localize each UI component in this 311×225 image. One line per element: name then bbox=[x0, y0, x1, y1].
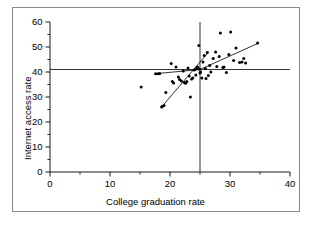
data-point bbox=[172, 82, 175, 85]
y-axis-title: Internet access rate bbox=[22, 77, 33, 160]
data-point bbox=[225, 71, 228, 74]
data-point bbox=[187, 67, 190, 70]
data-point bbox=[208, 64, 211, 67]
data-point bbox=[219, 32, 222, 35]
data-point bbox=[158, 72, 161, 75]
y-tick-label: 20 bbox=[32, 116, 43, 127]
y-tick-label: 30 bbox=[32, 91, 43, 102]
data-point bbox=[202, 61, 205, 64]
x-tick-label: 40 bbox=[285, 178, 296, 189]
data-point bbox=[204, 67, 207, 70]
data-point bbox=[223, 66, 226, 69]
data-point bbox=[215, 65, 218, 68]
data-point bbox=[229, 31, 232, 34]
scatter-plot: 0102030400102030405060 bbox=[0, 0, 311, 225]
data-point bbox=[235, 47, 238, 50]
data-point bbox=[170, 62, 173, 65]
data-point bbox=[180, 80, 183, 83]
data-point bbox=[218, 55, 221, 58]
figure: 0102030400102030405060 College graduatio… bbox=[0, 0, 311, 225]
y-tick-label: 40 bbox=[32, 66, 43, 77]
data-point bbox=[244, 62, 247, 65]
data-point bbox=[197, 44, 200, 47]
data-point bbox=[182, 70, 185, 73]
x-tick-label: 20 bbox=[165, 178, 176, 189]
data-point bbox=[212, 57, 215, 60]
data-point bbox=[140, 86, 143, 89]
data-point bbox=[227, 53, 230, 56]
data-point bbox=[232, 59, 235, 62]
data-point bbox=[189, 96, 192, 99]
data-point bbox=[241, 61, 244, 64]
x-tick-label: 0 bbox=[47, 178, 52, 189]
data-point bbox=[209, 71, 212, 74]
data-point bbox=[214, 51, 217, 54]
data-point bbox=[200, 77, 203, 80]
data-point bbox=[206, 51, 209, 54]
y-tick-label: 60 bbox=[32, 16, 43, 27]
data-point bbox=[191, 77, 194, 80]
data-point bbox=[207, 74, 210, 77]
x-tick-label: 10 bbox=[105, 178, 116, 189]
data-point bbox=[175, 66, 178, 69]
y-axis-title-wrap: Internet access rate bbox=[22, 160, 105, 171]
data-point bbox=[163, 104, 166, 107]
data-point bbox=[203, 54, 206, 57]
x-tick-label: 30 bbox=[225, 178, 236, 189]
y-tick-label: 50 bbox=[32, 41, 43, 52]
data-point bbox=[242, 57, 245, 60]
data-point bbox=[185, 80, 188, 83]
data-point bbox=[194, 74, 197, 77]
data-point bbox=[205, 77, 208, 80]
data-point bbox=[199, 71, 202, 74]
data-point bbox=[188, 75, 191, 78]
data-point bbox=[198, 68, 201, 71]
data-point bbox=[256, 42, 259, 45]
y-tick-label: 10 bbox=[32, 141, 43, 152]
data-point bbox=[164, 91, 167, 94]
x-axis-title: College graduation rate bbox=[0, 196, 311, 207]
